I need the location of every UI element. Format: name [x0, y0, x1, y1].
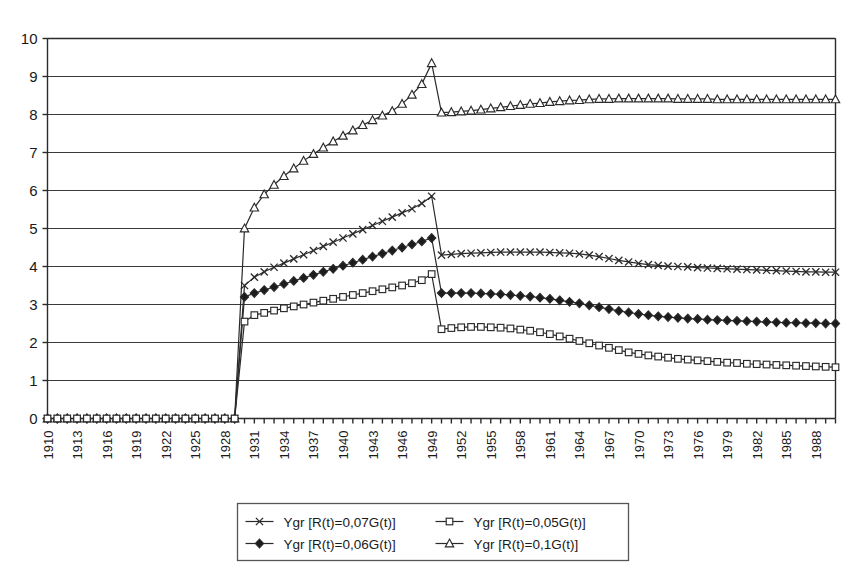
x-tick-label: 1982 — [750, 431, 765, 460]
data-point-marker — [64, 415, 71, 422]
data-point-marker — [222, 415, 229, 422]
legend-label: Ygr [R(t)=0,1G(t)] — [474, 537, 579, 552]
data-point-marker — [251, 312, 258, 319]
data-point-marker — [103, 415, 110, 422]
data-point-marker — [54, 415, 61, 422]
x-tick-label: 1931 — [247, 431, 262, 460]
data-point-marker — [773, 362, 780, 369]
data-point-marker — [675, 356, 682, 363]
data-point-marker — [556, 333, 563, 340]
data-point-marker — [576, 338, 583, 345]
data-point-marker — [172, 415, 179, 422]
data-point-marker — [192, 415, 199, 422]
legend-label: Ygr [R(t)=0,05G(t)] — [474, 515, 586, 530]
legend-label: Ygr [R(t)=0,07G(t)] — [284, 515, 396, 530]
data-point-marker — [527, 327, 534, 334]
x-tick-label: 1970 — [632, 431, 647, 460]
data-point-marker — [478, 324, 485, 331]
legend-box — [238, 504, 629, 561]
y-tick-label: 6 — [29, 182, 37, 199]
data-point-marker — [389, 284, 396, 291]
data-point-marker — [517, 326, 524, 333]
legend-label: Ygr [R(t)=0,06G(t)] — [284, 537, 396, 552]
x-tick-label: 1955 — [484, 431, 499, 460]
data-point-marker — [547, 331, 554, 338]
data-point-marker — [832, 364, 839, 371]
data-point-marker — [566, 335, 573, 342]
data-point-marker — [793, 362, 800, 369]
data-point-marker — [241, 318, 248, 325]
x-tick-label: 1922 — [159, 431, 174, 460]
data-point-marker — [635, 351, 642, 358]
data-point-marker — [399, 282, 406, 289]
data-point-marker — [123, 415, 130, 422]
x-tick-label: 1949 — [425, 431, 440, 460]
line-chart: 012345678910 191019131916191919221925192… — [0, 0, 857, 586]
data-point-marker — [694, 357, 701, 364]
data-point-marker — [684, 356, 691, 363]
data-point-marker — [625, 349, 632, 356]
x-tick-label: 1940 — [336, 431, 351, 460]
data-point-marker — [438, 326, 445, 333]
data-point-marker — [231, 415, 238, 422]
data-point-marker — [704, 358, 711, 365]
data-point-marker — [586, 340, 593, 347]
x-tick-label: 1976 — [691, 431, 706, 460]
data-point-marker — [143, 415, 150, 422]
data-point-marker — [182, 415, 189, 422]
data-point-marker — [537, 329, 544, 336]
data-point-marker — [813, 363, 820, 370]
data-point-marker — [783, 362, 790, 369]
data-point-marker — [822, 364, 829, 371]
y-tick-label: 0 — [29, 410, 37, 427]
x-tick-label: 1937 — [306, 431, 321, 460]
y-tick-label: 2 — [29, 334, 37, 351]
data-point-marker — [655, 353, 662, 360]
data-point-marker — [300, 301, 307, 308]
data-point-marker — [271, 307, 278, 314]
y-tick-label: 10 — [21, 30, 38, 47]
x-tick-label: 1946 — [395, 431, 410, 460]
data-point-marker — [330, 296, 337, 303]
data-point-marker — [763, 361, 770, 368]
chart-container: 012345678910 191019131916191919221925192… — [0, 0, 857, 586]
data-point-marker — [606, 345, 613, 352]
data-point-marker — [212, 415, 219, 422]
data-point-marker — [133, 415, 140, 422]
data-point-marker — [428, 271, 435, 278]
x-tick-label: 1967 — [602, 431, 617, 460]
data-point-marker — [665, 354, 672, 361]
data-point-marker — [448, 325, 455, 332]
data-point-marker — [744, 360, 751, 367]
x-tick-label: 1943 — [366, 431, 381, 460]
data-point-marker — [350, 292, 357, 299]
x-tick-label: 1973 — [661, 431, 676, 460]
x-tick-label: 1952 — [454, 431, 469, 460]
x-tick-label: 1961 — [543, 431, 558, 460]
x-tick-label: 1925 — [188, 431, 203, 460]
chart-legend: Ygr [R(t)=0,07G(t)]Ygr [R(t)=0,05G(t)]Yg… — [238, 504, 629, 561]
data-point-marker — [458, 324, 465, 331]
y-tick-label: 7 — [29, 144, 37, 161]
data-point-marker — [803, 363, 810, 370]
y-tick-label: 9 — [29, 68, 37, 85]
data-point-marker — [714, 359, 721, 366]
data-point-marker — [162, 415, 169, 422]
chart-background — [0, 0, 857, 586]
data-point-marker — [113, 415, 120, 422]
data-point-marker — [419, 277, 426, 284]
x-tick-label: 1964 — [572, 431, 587, 460]
x-tick-label: 1910 — [41, 431, 56, 460]
data-point-marker — [468, 324, 475, 331]
y-tick-label: 5 — [29, 220, 37, 237]
data-point-marker — [320, 297, 327, 304]
x-tick-label: 1913 — [70, 431, 85, 460]
data-point-marker — [202, 415, 209, 422]
data-point-marker — [645, 352, 652, 359]
data-point-marker — [616, 347, 623, 354]
x-tick-label: 1916 — [100, 431, 115, 460]
data-point-marker — [507, 325, 514, 332]
x-tick-label: 1928 — [218, 431, 233, 460]
data-point-marker — [153, 415, 160, 422]
y-tick-label: 1 — [29, 372, 37, 389]
